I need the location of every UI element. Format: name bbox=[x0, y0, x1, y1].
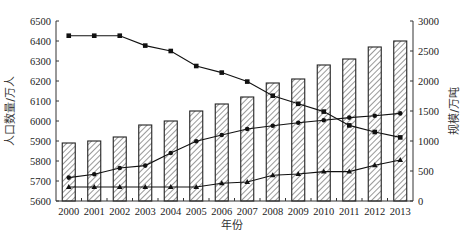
y-tick-label: 6500 bbox=[30, 16, 51, 27]
y-tick-label: 5700 bbox=[30, 176, 51, 187]
square-marker-icon bbox=[372, 130, 377, 135]
square-marker-icon bbox=[117, 33, 122, 38]
y-tick-label: 6200 bbox=[30, 76, 51, 87]
square-marker-icon bbox=[219, 70, 224, 75]
square-marker-icon bbox=[143, 43, 148, 48]
square-marker-icon bbox=[92, 33, 97, 38]
bar-2011 bbox=[343, 59, 356, 201]
circle-marker-icon bbox=[92, 172, 97, 177]
bar-2009 bbox=[292, 79, 305, 201]
x-tick-label: 2010 bbox=[313, 206, 334, 217]
square-marker-icon bbox=[66, 33, 71, 38]
circle-marker-icon bbox=[347, 115, 352, 120]
y-tick-label: 5800 bbox=[30, 156, 51, 167]
bar-2006 bbox=[215, 104, 228, 201]
square-marker-icon bbox=[168, 49, 173, 54]
circle-marker-icon bbox=[321, 118, 326, 123]
x-tick-label: 2002 bbox=[109, 206, 130, 217]
circle-marker-icon bbox=[194, 139, 199, 144]
x-tick-label: 2003 bbox=[135, 206, 156, 217]
y-tick-label: 6000 bbox=[30, 116, 51, 127]
y2-axis-title: 规模/万吨 bbox=[447, 87, 461, 135]
circle-marker-icon bbox=[245, 127, 250, 132]
bar-2000 bbox=[62, 143, 75, 201]
y2-tick-label: 1000 bbox=[418, 136, 439, 147]
bar-2007 bbox=[241, 97, 254, 201]
circle-marker-icon bbox=[143, 163, 148, 168]
circle-marker-icon bbox=[398, 111, 403, 116]
bar-2013 bbox=[394, 41, 407, 201]
y2-tick-label: 1500 bbox=[418, 106, 439, 117]
circle-marker-icon bbox=[66, 175, 71, 180]
square-marker-icon bbox=[194, 64, 199, 69]
bar-2012 bbox=[368, 47, 381, 201]
x-tick-label: 2008 bbox=[262, 206, 283, 217]
y-tick-label: 5900 bbox=[30, 136, 51, 147]
combo-chart: 5600570058005900600061006200630064006500… bbox=[0, 0, 471, 240]
y-tick-label: 6100 bbox=[30, 96, 51, 107]
square-marker-icon bbox=[245, 79, 250, 84]
y2-tick-label: 500 bbox=[418, 166, 434, 177]
axes bbox=[56, 21, 413, 201]
y-tick-label: 6300 bbox=[30, 56, 51, 67]
circle-marker-icon bbox=[117, 166, 122, 171]
y2-tick-label: 0 bbox=[418, 196, 423, 207]
y-axis-title: 人口数量/万人 bbox=[4, 76, 17, 146]
circle-marker-icon bbox=[219, 133, 224, 138]
square-marker-icon bbox=[321, 109, 326, 114]
bar-2008 bbox=[266, 83, 279, 201]
x-tick-label: 2005 bbox=[186, 206, 207, 217]
x-tick-label: 2012 bbox=[364, 206, 385, 217]
x-tick-label: 2000 bbox=[58, 206, 79, 217]
bar-2001 bbox=[88, 141, 101, 201]
circle-marker-icon bbox=[270, 123, 275, 128]
y2-tick-label: 2500 bbox=[418, 46, 439, 57]
circle-marker-icon bbox=[168, 151, 173, 156]
square-marker-icon bbox=[296, 102, 301, 107]
x-axis-title: 年份 bbox=[221, 218, 243, 232]
x-tick-label: 2006 bbox=[211, 206, 232, 217]
x-tick-label: 2011 bbox=[339, 206, 360, 217]
square-marker-icon bbox=[398, 135, 403, 140]
square-marker-icon bbox=[347, 123, 352, 128]
circle-marker-icon bbox=[372, 114, 377, 119]
y-tick-label: 6400 bbox=[30, 36, 51, 47]
x-tick-label: 2004 bbox=[160, 206, 182, 217]
x-tick-label: 2007 bbox=[237, 206, 258, 217]
circle-marker-icon bbox=[296, 120, 301, 125]
square-marker-icon bbox=[270, 93, 275, 98]
y-tick-label: 5600 bbox=[30, 196, 51, 207]
x-tick-label: 2013 bbox=[390, 206, 411, 217]
x-tick-label: 2001 bbox=[84, 206, 105, 217]
population-bars bbox=[62, 41, 407, 201]
y2-tick-label: 3000 bbox=[418, 16, 439, 27]
bar-2010 bbox=[317, 65, 330, 201]
x-tick-label: 2009 bbox=[288, 206, 309, 217]
y2-tick-label: 2000 bbox=[418, 76, 439, 87]
